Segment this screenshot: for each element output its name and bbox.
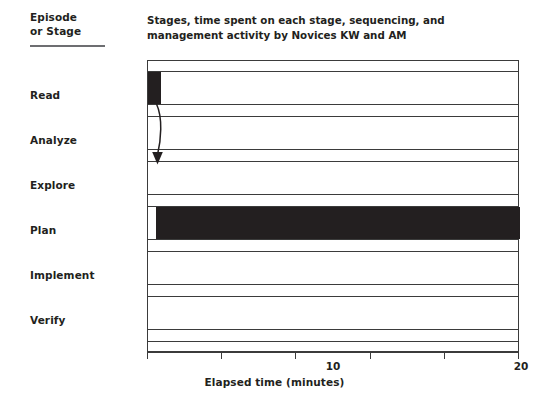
x-tick-16 — [444, 352, 445, 359]
row-label-read: Read — [30, 89, 60, 101]
column-header-divider — [30, 45, 105, 47]
band-line — [148, 251, 518, 252]
x-tick-20 — [518, 352, 519, 359]
figure: Episode or Stage Stages, time spent on e… — [0, 0, 549, 400]
chart-title-line-1: Stages, time spent on each stage, sequen… — [147, 13, 447, 28]
chart-title: Stages, time spent on each stage, sequen… — [147, 13, 447, 43]
x-tick-0 — [147, 352, 148, 359]
band-line — [148, 149, 518, 150]
column-header: Episode or Stage — [30, 10, 125, 38]
band-line — [148, 329, 518, 330]
x-axis-title: Elapsed time (minutes) — [0, 376, 549, 388]
column-header-line-1: Episode — [30, 10, 125, 24]
band-line — [148, 104, 518, 105]
x-axis — [147, 352, 519, 353]
column-header-line-2: or Stage — [30, 24, 125, 38]
x-tick-label-20: 20 — [514, 360, 529, 372]
band-line — [148, 341, 518, 342]
bar-explore — [156, 207, 520, 239]
x-tick-8 — [295, 352, 296, 359]
row-label-analyze-2: Analyze — [30, 134, 77, 146]
row-label-explore-2: Explore — [30, 179, 75, 191]
band-line — [148, 71, 518, 72]
chart-title-line-2: management activity by Novices KW and AM — [147, 28, 447, 43]
plot-area — [147, 60, 519, 352]
band-line — [148, 194, 518, 195]
bar-read — [148, 72, 161, 104]
row-label-plan: Plan — [30, 224, 56, 236]
row-label-implement: Implement — [30, 269, 95, 281]
band-line — [148, 161, 518, 162]
x-tick-label-10: 10 — [326, 360, 341, 372]
band-line — [148, 116, 518, 117]
band-line — [148, 296, 518, 297]
band-line — [148, 239, 518, 240]
row-label-verify: Verify — [30, 314, 65, 326]
x-tick-12 — [370, 352, 371, 359]
band-line — [148, 284, 518, 285]
x-tick-4 — [221, 352, 222, 359]
